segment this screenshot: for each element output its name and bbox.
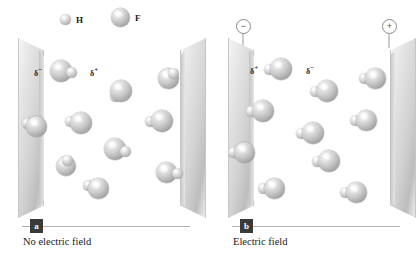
hydrogen-atom — [66, 67, 77, 78]
caption-rule-b — [232, 226, 400, 227]
capacitor-stage-b: δ+ δ− — [228, 38, 416, 218]
hf-molecule — [318, 150, 350, 172]
right-plate-b — [390, 38, 416, 218]
fluorine-atom — [264, 178, 285, 199]
hf-molecule — [234, 142, 265, 163]
hf-molecule — [252, 100, 284, 122]
delta-positive-label-b: δ+ — [250, 64, 258, 76]
hf-molecule — [302, 122, 334, 144]
fluorine-atom — [316, 80, 338, 102]
hf-molecule — [104, 138, 136, 160]
fluorine-atom — [110, 80, 132, 102]
hydrogen-atom — [172, 168, 183, 179]
hydrogen-atom — [120, 146, 131, 157]
panel-caption-b: Electric field — [233, 236, 288, 247]
delta-positive-label-a: δ+ — [90, 66, 98, 78]
fluorine-atom — [70, 112, 92, 134]
panel-b-electric-field: − + δ+ δ− b Electric field — [210, 0, 420, 265]
fluorine-atom — [234, 142, 255, 163]
delta-negative-label-b: δ− — [306, 64, 314, 76]
fluorine-atom — [270, 58, 292, 80]
hf-molecule — [151, 110, 183, 132]
hf-molecule — [316, 80, 348, 102]
hf-molecule — [50, 60, 82, 82]
fluorine-atom — [88, 178, 109, 199]
minus-sign-icon: − — [236, 19, 251, 34]
fluorine-atom — [302, 122, 324, 144]
hf-molecule — [264, 178, 295, 199]
delta-negative-label-a: δ− — [34, 66, 42, 78]
panel-tag-b: b — [240, 219, 253, 233]
hf-molecule — [88, 178, 119, 199]
capacitor-stage-a: δ− δ+ — [18, 38, 206, 218]
fluorine-atom — [346, 182, 367, 203]
caption-rule-a — [22, 226, 190, 227]
panel-caption-a: No electric field — [23, 236, 91, 247]
fluorine-atom — [151, 110, 173, 132]
hydrogen-atom — [62, 155, 73, 166]
hf-molecule — [346, 182, 377, 203]
right-plate-a — [180, 38, 206, 218]
hf-molecule — [56, 156, 86, 176]
fluorine-atom — [318, 150, 340, 172]
hf-molecule — [156, 162, 187, 183]
hf-molecule — [70, 112, 102, 134]
panel-a-no-field: δ− δ+ a No electric field — [0, 0, 210, 265]
fluorine-atom — [365, 68, 386, 89]
plus-sign-icon: + — [382, 19, 397, 34]
panel-tag-a: a — [30, 219, 43, 233]
fluorine-atom — [26, 116, 47, 137]
hf-molecule — [365, 68, 396, 89]
hf-molecule — [270, 58, 302, 80]
fluorine-atom — [356, 110, 377, 131]
hf-molecule — [26, 116, 57, 137]
hf-molecule — [356, 110, 387, 131]
hf-molecule — [158, 68, 189, 89]
hf-molecule — [110, 80, 142, 102]
fluorine-atom — [252, 100, 274, 122]
dipole-alignment-figure: H F δ− δ+ a No electric field − — [0, 0, 420, 265]
